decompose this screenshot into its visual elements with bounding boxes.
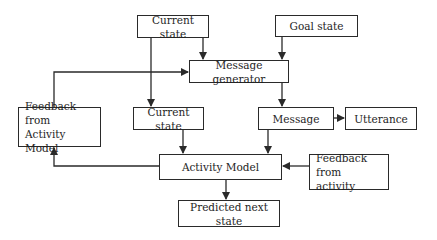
node-label-line-1: Feedback from [316, 151, 388, 179]
node-message-generator: Message generator [189, 60, 289, 83]
node-label: Goal state [290, 19, 344, 33]
node-current-state-top: Current state [137, 15, 209, 38]
activity-model-diagram: Current state Goal state Message generat… [0, 0, 437, 240]
node-label: Message [273, 112, 320, 126]
node-label: Current state [134, 105, 203, 133]
node-current-state-mid: Current state [133, 107, 204, 130]
node-goal-state: Goal state [275, 15, 358, 37]
node-feedback-from-activity: Feedback from activity [309, 154, 389, 190]
node-label: Activity Model [182, 160, 259, 174]
node-label: Current state [138, 13, 208, 41]
node-label: Predicted next state [179, 200, 279, 228]
node-activity-model: Activity Model [159, 154, 282, 180]
node-label-line-2: activity [316, 179, 355, 193]
node-predicted-next-state: Predicted next state [178, 200, 280, 227]
node-utterance: Utterance [345, 107, 417, 130]
node-feedback-from-activity-model: Feedback from Activity Model [18, 107, 101, 147]
node-label: Utterance [354, 112, 408, 126]
node-label: Message generator [190, 58, 288, 86]
node-message: Message [258, 107, 334, 130]
node-label-line-2: Activity Model [25, 127, 100, 155]
node-label-line-1: Feedback from [25, 99, 100, 127]
